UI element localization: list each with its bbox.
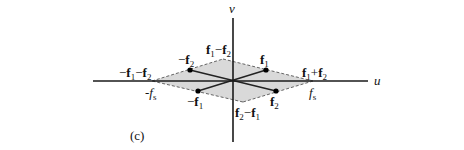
label-f1-plus-f2: f1+f2 bbox=[302, 65, 327, 82]
label-f2: f2 bbox=[270, 94, 279, 111]
point-f2 bbox=[273, 88, 278, 93]
panel-label: (c) bbox=[130, 128, 144, 143]
label-neg-f2: −f2 bbox=[178, 52, 194, 69]
label-fs-right: fs bbox=[309, 85, 317, 102]
label-neg-f1-minus-f2: −f1−f2 bbox=[119, 65, 151, 82]
label-f2-minus-f1: f2−f1 bbox=[235, 105, 260, 122]
point-neg-f1 bbox=[195, 88, 200, 93]
v-axis-label: v bbox=[229, 1, 235, 16]
label-neg-f1: −f1 bbox=[187, 94, 203, 111]
label-f1: f1 bbox=[260, 52, 269, 69]
label-fs-left: -fs bbox=[145, 85, 157, 102]
label-f1-minus-f2: f1−f2 bbox=[206, 42, 231, 59]
frequency-support-diagram: uv f1f2−f1−f2f1−f2f2−f1f1+f2−f1−f2fs-fs(… bbox=[0, 0, 464, 150]
u-axis-label: u bbox=[374, 73, 381, 88]
